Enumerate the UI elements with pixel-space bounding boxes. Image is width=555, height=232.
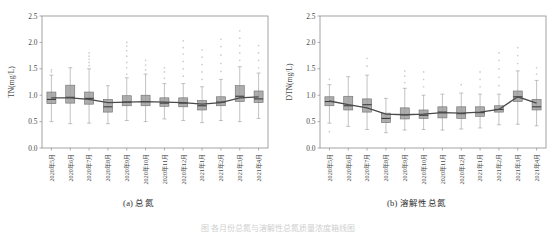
box-group — [198, 49, 207, 123]
outlier-point — [126, 67, 128, 69]
outlier-point — [201, 49, 203, 51]
y-tick-label: 0.0 — [28, 144, 38, 153]
outlier-point — [182, 47, 184, 49]
box-group — [419, 71, 428, 129]
outlier-point — [258, 52, 260, 54]
outlier-point — [498, 85, 500, 87]
outlier-point — [258, 67, 260, 69]
x-tick-label: 2020年12月 — [458, 154, 466, 185]
outlier-point — [498, 68, 500, 70]
outlier-point — [536, 73, 538, 75]
outlier-point — [201, 56, 203, 58]
x-tick-label: 2020年5月 — [326, 154, 334, 181]
figure-container: 0.00.51.01.52.02.5TN(mg/L)2020年5月2020年6月… — [0, 0, 555, 232]
outlier-point — [239, 52, 241, 54]
y-tick-label: 1.0 — [306, 91, 316, 100]
box-group — [66, 68, 75, 124]
trend-line — [51, 97, 258, 104]
outlier-point — [201, 79, 203, 81]
box-group — [494, 52, 503, 125]
y-tick-label: 1.5 — [28, 64, 38, 73]
outlier-point — [404, 70, 406, 72]
x-tick-label: 2020年6月 — [345, 154, 353, 181]
trend-line — [329, 97, 536, 115]
x-tick-label: 2020年11月 — [161, 154, 169, 184]
y-tick-label: 0.5 — [306, 117, 316, 126]
outlier-point — [126, 45, 128, 47]
box-group — [457, 84, 466, 129]
box-rect — [400, 108, 409, 119]
outlier-point — [366, 57, 368, 59]
outlier-point — [88, 52, 90, 54]
outlier-point — [88, 58, 90, 60]
outlier-point — [145, 69, 147, 71]
chart-panel-a: 0.00.51.01.52.02.5TN(mg/L)2020年5月2020年6月… — [0, 0, 277, 232]
box-group — [160, 67, 169, 119]
outlier-point — [329, 131, 331, 133]
outlier-point — [182, 61, 184, 63]
plot-frame — [42, 16, 268, 148]
outlier-point — [423, 86, 425, 88]
y-tick-label: 2.0 — [306, 38, 316, 47]
box-group — [400, 70, 409, 130]
box-group — [513, 47, 522, 124]
y-tick-label: 2.5 — [28, 12, 38, 21]
x-tick-label: 2020年8月 — [104, 154, 112, 181]
outlier-point — [88, 62, 90, 64]
y-axis-title: TN(mg/L) — [7, 66, 16, 98]
x-tick-label: 2020年10月 — [142, 154, 150, 185]
x-tick-label: 2021年2月 — [217, 154, 225, 181]
outlier-point — [479, 86, 481, 88]
box-group — [216, 38, 225, 120]
box-rect — [122, 96, 131, 106]
x-tick-label: 2021年1月 — [198, 154, 206, 181]
outlier-point — [220, 54, 222, 56]
y-tick-label: 0.5 — [28, 117, 38, 126]
plot-frame — [320, 16, 546, 148]
box-group — [381, 98, 390, 132]
box-group — [179, 40, 188, 121]
outlier-point — [517, 47, 519, 49]
outlier-point — [145, 64, 147, 66]
box-group — [476, 71, 485, 128]
x-tick-label: 2021年1月 — [476, 154, 484, 181]
outlier-point — [51, 71, 53, 73]
outlier-point — [258, 45, 260, 47]
outlier-point — [239, 45, 241, 47]
outlier-point — [220, 63, 222, 65]
outlier-point — [88, 55, 90, 57]
outlier-point — [258, 60, 260, 62]
outlier-point — [201, 64, 203, 66]
panel-b-caption: (b) 溶解性总氮 — [278, 196, 555, 208]
outlier-point — [517, 63, 519, 65]
box-group — [254, 45, 263, 119]
outlier-point — [164, 71, 166, 73]
box-group — [235, 30, 244, 122]
y-tick-label: 1.5 — [306, 64, 316, 73]
box-group — [363, 57, 372, 129]
outlier-point — [220, 38, 222, 40]
box-group — [344, 77, 353, 127]
box-group — [103, 86, 112, 124]
outlier-point — [498, 60, 500, 62]
outlier-point — [498, 52, 500, 54]
outlier-point — [329, 79, 331, 81]
outlier-point — [182, 68, 184, 70]
x-tick-label: 2020年7月 — [85, 154, 93, 181]
outlier-point — [182, 75, 184, 77]
outlier-point — [164, 67, 166, 69]
box-rect — [363, 99, 372, 112]
outlier-point — [182, 53, 184, 55]
outlier-point — [164, 77, 166, 79]
box-rect — [141, 95, 150, 106]
box-group — [532, 67, 541, 126]
box-group — [85, 52, 94, 123]
box-rect — [103, 99, 112, 112]
outlier-point — [460, 84, 462, 86]
outlier-point — [239, 60, 241, 62]
outlier-point — [51, 69, 53, 71]
outlier-point — [126, 62, 128, 64]
x-tick-label: 2020年11月 — [439, 154, 447, 184]
outlier-point — [201, 71, 203, 73]
x-tick-label: 2020年9月 — [401, 154, 409, 181]
